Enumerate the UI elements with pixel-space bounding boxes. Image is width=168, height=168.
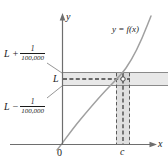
limit-L-label: L <box>53 74 59 84</box>
curve-equation-label: y = f(x) <box>112 25 139 34</box>
upper-label-leader-line <box>47 63 62 73</box>
upper-epsilon-numerator: 1 <box>30 45 36 53</box>
upper-epsilon-label: L + 1 100,000 <box>4 45 45 62</box>
upper-epsilon-lead: L + <box>4 49 19 59</box>
point-c-L-marker <box>121 77 125 81</box>
upper-epsilon-fraction: 1 100,000 <box>20 45 45 62</box>
x-axis-arrow <box>150 142 158 148</box>
point-c-label: c <box>120 147 124 157</box>
lower-epsilon-lead: L − <box>4 102 19 112</box>
lower-epsilon-fraction: 1 100,000 <box>20 98 45 115</box>
limit-epsilon-delta-figure: y x 0 c L y = f(x) L + 1 100,000 L − 1 1… <box>0 0 168 168</box>
lower-label-leader-line <box>47 86 62 98</box>
y-axis-label: y <box>66 12 70 22</box>
x-axis-label: x <box>158 139 162 149</box>
lower-epsilon-denominator: 100,000 <box>20 106 45 115</box>
origin-label: 0 <box>57 148 62 158</box>
y-axis-arrow <box>60 13 66 21</box>
lower-epsilon-label: L − 1 100,000 <box>4 98 45 115</box>
figure-canvas <box>0 0 168 168</box>
lower-epsilon-numerator: 1 <box>30 98 36 106</box>
upper-epsilon-denominator: 100,000 <box>20 53 45 62</box>
